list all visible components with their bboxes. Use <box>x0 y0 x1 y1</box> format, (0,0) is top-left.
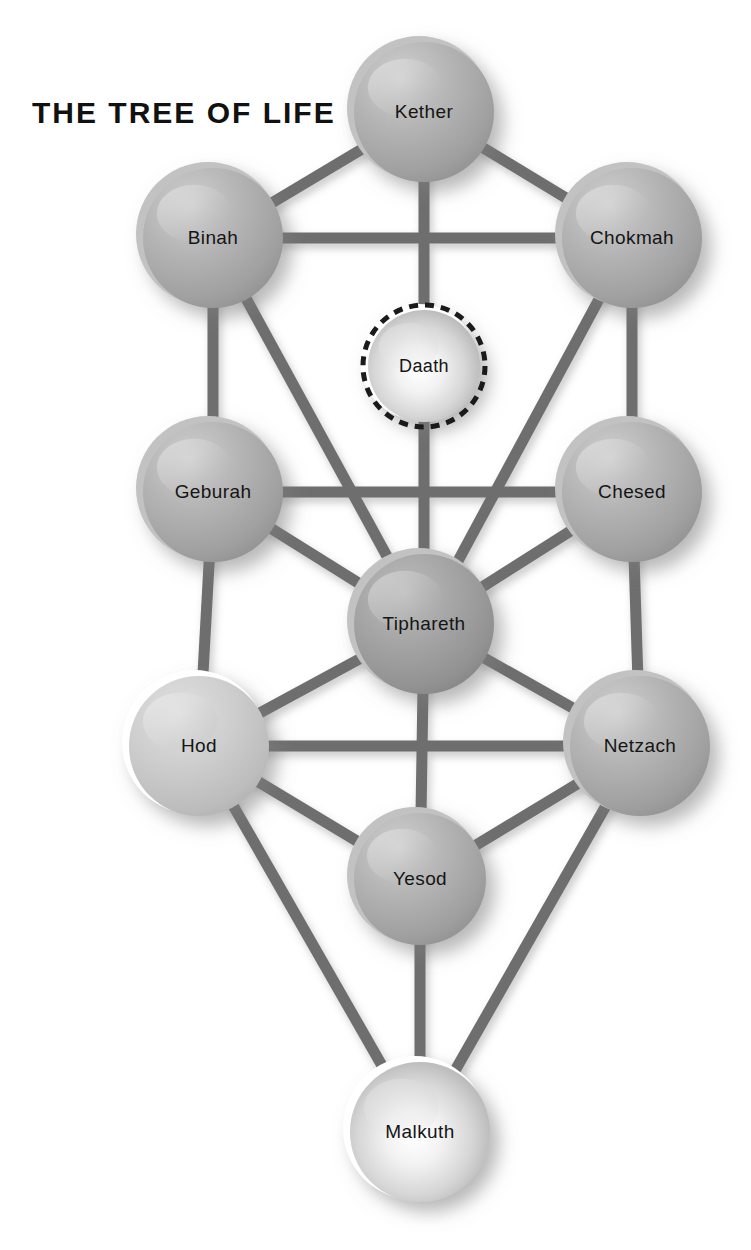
node-kether[interactable] <box>347 36 494 182</box>
tree-of-life-canvas <box>0 0 751 1250</box>
node-sheen-malkuth <box>364 1079 439 1137</box>
page-title: THE TREE OF LIFE <box>32 96 336 130</box>
node-geburah[interactable] <box>136 416 283 562</box>
node-malkuth[interactable] <box>343 1056 490 1202</box>
node-binah[interactable] <box>136 162 283 308</box>
node-sheen-tiphareth <box>368 571 443 629</box>
node-sheen-netzach <box>584 693 659 751</box>
node-sheen-yesod <box>367 829 438 883</box>
node-tiphareth[interactable] <box>347 548 494 694</box>
node-hod[interactable] <box>122 670 269 816</box>
tree-of-life-diagram: THE TREE OF LIFE KetherBinahChokmahDaath… <box>0 0 751 1250</box>
node-sheen-chesed <box>576 439 651 497</box>
node-chokmah[interactable] <box>555 162 702 308</box>
node-sheen-daath <box>379 323 439 369</box>
node-sheen-hod <box>143 693 218 751</box>
node-yesod[interactable] <box>347 807 486 945</box>
node-sheen-kether <box>368 59 443 117</box>
node-sheen-binah <box>157 185 232 243</box>
node-netzach[interactable] <box>563 670 710 816</box>
node-chesed[interactable] <box>555 416 702 562</box>
node-sheen-geburah <box>157 439 232 497</box>
node-sheen-chokmah <box>576 185 651 243</box>
